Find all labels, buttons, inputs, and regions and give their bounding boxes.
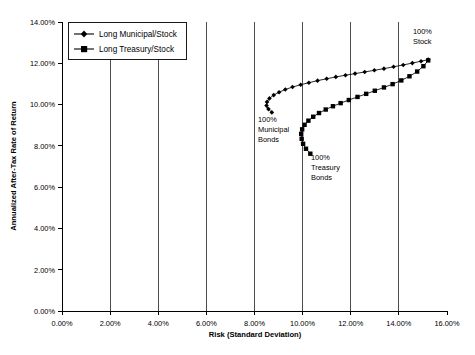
data-point bbox=[407, 74, 411, 78]
data-point bbox=[338, 101, 342, 105]
chart-legend[interactable]: Long Municipal/Stock Long Treasury/Stock bbox=[68, 22, 186, 59]
data-point bbox=[299, 137, 303, 141]
x-axis-title: Risk (Standard Deviation) bbox=[209, 330, 302, 339]
y-tick-label-14: 14.00% bbox=[30, 18, 55, 27]
efficient-frontier-chart: 0.00%2.00%4.00%6.00%8.00%10.00%12.00%14.… bbox=[0, 0, 475, 355]
y-tick-label-8: 8.00% bbox=[34, 142, 55, 151]
x-tick-label-12: 12.00% bbox=[338, 319, 363, 328]
x-tick-label-10: 10.00% bbox=[290, 319, 315, 328]
data-point bbox=[373, 89, 377, 93]
data-point bbox=[317, 111, 321, 115]
x-tick-label-6: 6.00% bbox=[196, 319, 217, 328]
y-axis-title: Annualized After-Tax Rate of Return bbox=[9, 101, 18, 231]
legend-label-treasury: Long Treasury/Stock bbox=[99, 45, 175, 54]
y-tick-label-4: 4.00% bbox=[34, 224, 55, 233]
annotation-treas-line2: Treasury bbox=[311, 163, 340, 172]
annotation-stock: 100% Stock bbox=[413, 27, 432, 46]
x-axis-tick-labels: 0.00%2.00%4.00%6.00%8.00%10.00%12.00%14.… bbox=[52, 319, 460, 328]
data-point bbox=[364, 92, 368, 96]
annotation-stock-line1: 100% bbox=[413, 27, 432, 36]
y-tick-label-0: 0.00% bbox=[34, 307, 55, 316]
data-point bbox=[426, 58, 430, 62]
y-tick-label-6: 6.00% bbox=[34, 183, 55, 192]
data-point bbox=[299, 132, 303, 136]
chart-container: 0.00%2.00%4.00%6.00%8.00%10.00%12.00%14.… bbox=[0, 0, 475, 355]
data-point bbox=[301, 142, 305, 146]
data-point bbox=[304, 147, 308, 151]
y-tick-label-12: 12.00% bbox=[30, 59, 55, 68]
data-point bbox=[302, 123, 306, 127]
annotation-muni-line1: 100% bbox=[258, 115, 277, 124]
annotation-stock-line2: Stock bbox=[413, 37, 432, 46]
annotation-treas-line1: 100% bbox=[311, 153, 330, 162]
x-tick-label-16: 16.00% bbox=[434, 319, 459, 328]
x-tick-label-0: 0.00% bbox=[52, 319, 73, 328]
x-tick-label-14: 14.00% bbox=[386, 319, 411, 328]
y-tick-label-2: 2.00% bbox=[34, 266, 55, 275]
data-point bbox=[331, 104, 335, 108]
data-point bbox=[306, 118, 310, 122]
data-point bbox=[347, 98, 351, 102]
data-point bbox=[415, 69, 419, 73]
x-tick-label-4: 4.00% bbox=[148, 319, 169, 328]
data-point bbox=[421, 64, 425, 68]
data-point bbox=[399, 78, 403, 82]
legend-label-municipal: Long Municipal/Stock bbox=[99, 30, 178, 39]
data-point bbox=[324, 107, 328, 111]
annotation-treas-line3: Bonds bbox=[311, 173, 332, 182]
data-point bbox=[382, 85, 386, 89]
data-point bbox=[311, 115, 315, 119]
x-tick-label-2: 2.00% bbox=[100, 319, 121, 328]
y-tick-label-10: 10.00% bbox=[30, 100, 55, 109]
annotation-muni-line2: Municipal bbox=[258, 125, 290, 134]
data-point bbox=[300, 127, 304, 131]
data-point bbox=[390, 82, 394, 86]
x-tick-label-8: 8.00% bbox=[244, 319, 265, 328]
annotation-muni-line3: Bonds bbox=[258, 135, 279, 144]
data-point bbox=[355, 95, 359, 99]
square-icon bbox=[81, 46, 87, 52]
